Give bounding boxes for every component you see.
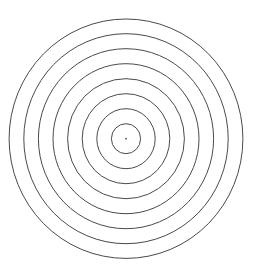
rings-graphic <box>0 0 255 269</box>
center-dot <box>125 138 127 140</box>
concentric-circles-diagram <box>0 0 255 269</box>
